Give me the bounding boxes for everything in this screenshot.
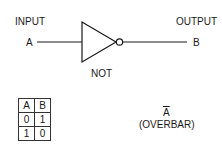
table-cell: 0 [35, 127, 51, 141]
inversion-bubble-icon [116, 39, 122, 45]
gate-label: NOT [91, 68, 112, 79]
table-cell: 0 [19, 113, 35, 127]
truth-table-header: A B [19, 99, 51, 113]
buffer-triangle-icon [82, 22, 116, 62]
header-cell: B [35, 99, 51, 113]
table-cell: 1 [19, 127, 35, 141]
table-cell: 1 [35, 113, 51, 127]
header-cell: A [19, 99, 35, 113]
overbar-expression: A [163, 107, 170, 118]
overbar-caption: (OVERBAR) [139, 119, 195, 130]
truth-table: A B 0 1 1 0 [18, 98, 51, 141]
truth-table-row: 1 0 [19, 127, 51, 141]
truth-table-row: 0 1 [19, 113, 51, 127]
